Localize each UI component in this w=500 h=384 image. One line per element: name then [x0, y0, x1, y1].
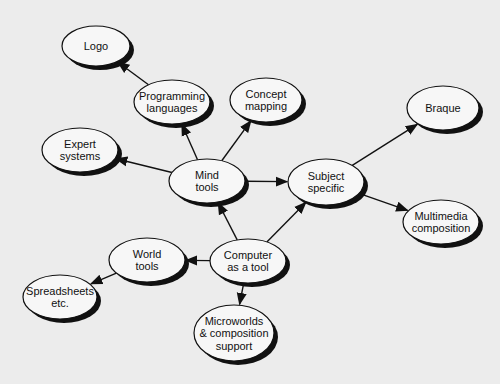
diagram-canvas: LogoProgramminglanguagesConceptmappingBr… [0, 0, 500, 384]
edge-mind-to-expert [116, 159, 172, 173]
edge-subject-to-braque [352, 124, 417, 165]
edge-programming-to-logo [118, 62, 149, 84]
concept-map-diagram: LogoProgramminglanguagesConceptmappingBr… [0, 0, 500, 384]
edge-mind-to-concept [222, 121, 251, 161]
node-expert: Expertsystems [42, 128, 122, 176]
node-label: composition [412, 222, 471, 234]
node-label: Subject [308, 170, 345, 182]
node-concept: Conceptmapping [230, 78, 306, 126]
node-label: Microworlds [205, 315, 264, 327]
node-braque: Braque [407, 86, 483, 134]
node-label: Braque [425, 102, 460, 114]
node-label: mapping [245, 100, 287, 112]
node-label: Mind [195, 169, 219, 181]
node-label: systems [60, 150, 101, 162]
node-label: languages [147, 102, 198, 114]
node-label: Programming [139, 90, 205, 102]
nodes-layer: LogoProgramminglanguagesConceptmappingBr… [23, 26, 483, 365]
node-label: Computer [224, 249, 273, 261]
node-label: Logo [84, 40, 108, 52]
node-label: Spreadsheets [26, 285, 94, 297]
node-multimedia: Multimediacomposition [403, 200, 483, 248]
edge-mind-to-programming [182, 124, 198, 159]
edge-computer-to-subject [267, 202, 306, 241]
node-label: support [216, 340, 253, 352]
node-label: as a tool [227, 261, 269, 273]
node-label: World [133, 248, 162, 260]
node-label: tools [195, 181, 219, 193]
edge-world-to-spreadsheets [91, 273, 116, 284]
edge-computer-to-mind [218, 203, 237, 240]
edge-subject-to-multimedia [359, 193, 408, 210]
node-label: & composition [199, 327, 268, 339]
node-programming: Programminglanguages [134, 80, 214, 128]
node-subject: Subjectspecific [288, 159, 368, 209]
node-logo: Logo [62, 26, 134, 70]
node-label: Concept [246, 88, 287, 100]
node-label: Expert [64, 138, 96, 150]
node-mind: Mindtools [169, 159, 249, 207]
node-microworlds: Microworlds& compositionsupport [194, 305, 278, 365]
node-spreadsheets: Spreadsheetsetc. [23, 275, 101, 323]
node-label: tools [135, 260, 159, 272]
node-world: Worldtools [109, 238, 189, 286]
node-label: specific [308, 182, 345, 194]
node-label: Multimedia [414, 210, 468, 222]
node-computer: Computeras a tool [210, 239, 290, 287]
node-label: etc. [51, 297, 69, 309]
